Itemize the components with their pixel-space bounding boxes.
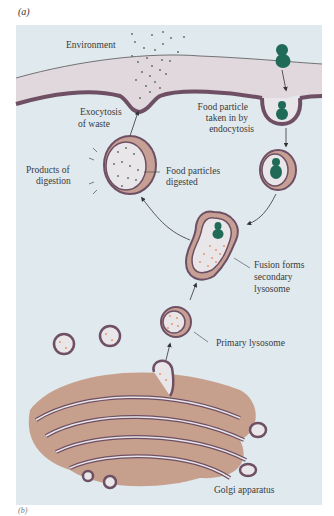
svg-text:endocytosis: endocytosis (209, 124, 254, 134)
svg-text:secondary: secondary (254, 272, 293, 282)
label-golgi-apparatus: Golgi apparatus (214, 485, 275, 495)
svg-text:Food particle: Food particle (198, 102, 248, 112)
label-primary-lysosome: Primary lysosome (216, 338, 285, 348)
label-environment: Environment (66, 40, 116, 50)
svg-text:Exocytosis: Exocytosis (80, 107, 122, 117)
svg-text:Products of: Products of (26, 165, 70, 175)
svg-text:digested: digested (166, 177, 198, 187)
svg-text:of waste: of waste (78, 119, 110, 129)
panel-b-label: (b) (18, 506, 27, 515)
svg-text:digestion: digestion (36, 176, 71, 186)
svg-text:Fusion forms: Fusion forms (254, 260, 305, 270)
endocytic-vesicle (260, 150, 296, 190)
svg-text:taken in by: taken in by (206, 113, 248, 123)
svg-text:Food particles: Food particles (166, 166, 220, 176)
digesting-lysosome (104, 136, 156, 194)
lysosome-diagram: Environment Food particle taken in by en… (0, 0, 334, 516)
primary-lysosome (161, 307, 191, 337)
svg-text:lysosome: lysosome (254, 284, 290, 294)
